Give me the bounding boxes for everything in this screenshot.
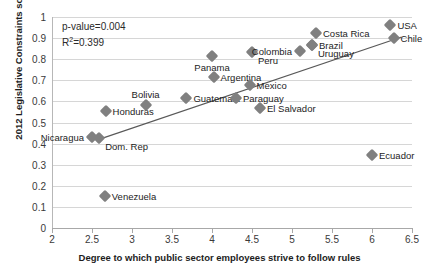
grid-line [52, 186, 412, 187]
y-axis-tick-label: 0.6 [32, 96, 46, 107]
data-point-label: Chile [401, 33, 423, 44]
x-axis-tick-label: 4.5 [245, 234, 259, 245]
x-axis-tick-label: 6.5 [405, 234, 419, 245]
x-axis-tick-mark [92, 229, 93, 233]
x-axis-tick-label: 4 [209, 234, 215, 245]
data-point-label: Dom. Rep [105, 141, 148, 152]
grid-line [52, 123, 412, 124]
y-axis-tick-label: 0.5 [32, 117, 46, 128]
y-axis-tick-label: 0.8 [32, 54, 46, 65]
data-point-label: Ecuador [379, 150, 414, 161]
x-axis-tick-label: 3.5 [165, 234, 179, 245]
y-axis-tick-label: 1 [40, 12, 46, 23]
x-axis-tick-label: 2 [49, 234, 55, 245]
y-axis-title: 2012 Legislative Constraints score [13, 0, 24, 142]
grid-line [52, 207, 412, 208]
data-point-label: Argentina [221, 72, 262, 83]
x-axis-tick-mark [132, 229, 133, 233]
x-axis-tick-label: 2.5 [85, 234, 99, 245]
scatter-chart: 00.10.20.30.40.50.60.70.80.91 22.533.544… [0, 0, 439, 276]
data-point-label: El Salvador [267, 102, 316, 113]
x-axis-tick-mark [412, 229, 413, 233]
data-point-label: Nicaragua [41, 132, 84, 143]
x-axis-tick-mark [292, 229, 293, 233]
y-axis-tick-label: 0.2 [32, 180, 46, 191]
data-point-label: Colombia [252, 45, 292, 56]
x-axis-tick-mark [332, 229, 333, 233]
x-axis-tick-mark [172, 229, 173, 233]
y-axis-tick-label: 0.1 [32, 201, 46, 212]
grid-line [52, 17, 412, 18]
grid-line [52, 59, 412, 60]
data-point-label: Mexico [257, 79, 287, 90]
data-point-label: Brazil [319, 40, 343, 51]
x-axis-tick-label: 5 [289, 234, 295, 245]
x-axis-tick-label: 5.5 [325, 234, 339, 245]
x-axis-tick-mark [372, 229, 373, 233]
x-axis-title: Degree to which public sector employees … [0, 252, 439, 263]
data-point-label: Costa Rica [323, 27, 369, 38]
x-axis-tick-mark [52, 229, 53, 233]
grid-line [52, 165, 412, 166]
y-axis-line [52, 17, 53, 229]
x-axis-tick-mark [212, 229, 213, 233]
p-value-text: p-value=0.004 [62, 20, 126, 33]
data-point-label: Venezuela [112, 191, 156, 202]
r-squared-text: R2=0.399 [62, 33, 126, 49]
y-axis-tick-label: 0 [40, 223, 46, 234]
y-axis-tick-label: 0.7 [32, 75, 46, 86]
data-point-label: Bolivia [132, 88, 160, 99]
x-axis-tick-label: 3 [129, 234, 135, 245]
y-axis-tick-label: 0.3 [32, 159, 46, 170]
y-axis-tick-label: 0.9 [32, 33, 46, 44]
x-axis-tick-mark [252, 229, 253, 233]
x-axis-line [52, 228, 413, 229]
data-point-label: USA [397, 20, 417, 31]
x-axis-tick-label: 6 [369, 234, 375, 245]
statistics-annotation: p-value=0.004 R2=0.399 [62, 20, 126, 49]
